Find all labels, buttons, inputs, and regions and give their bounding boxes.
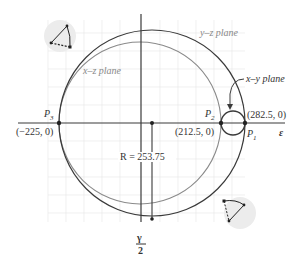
p2-coord: (212.5, 0) — [175, 126, 214, 138]
point-bottom — [150, 217, 154, 221]
strain-element-icon-bottom-right — [223, 197, 257, 229]
p3-label: P3 — [43, 108, 54, 122]
p3-coord: (−225, 0) — [16, 126, 53, 138]
xy-plane-label: x–y plane — [245, 73, 285, 84]
point-p2 — [219, 121, 223, 125]
gamma-axis-label-num: γ — [136, 232, 142, 243]
xz-plane-label: x–z plane — [82, 65, 122, 76]
epsilon-axis-label: ε — [279, 127, 284, 138]
p1-coord: (282.5, 0) — [247, 109, 286, 121]
point-p3 — [57, 121, 61, 125]
radius-label: R = 253.75 — [120, 151, 165, 162]
mohr-circle-diagram: y–z plane x–z plane x–y plane P3 (−225, … — [0, 0, 299, 266]
gamma-axis-label-den: 2 — [138, 245, 143, 256]
point-p1 — [243, 121, 247, 125]
yz-plane-label: y–z plane — [199, 27, 239, 38]
point-center — [150, 121, 154, 125]
p2-label: P2 — [204, 108, 215, 122]
p1-label: P1 — [246, 128, 257, 142]
strain-element-icon-top-left — [44, 20, 76, 52]
